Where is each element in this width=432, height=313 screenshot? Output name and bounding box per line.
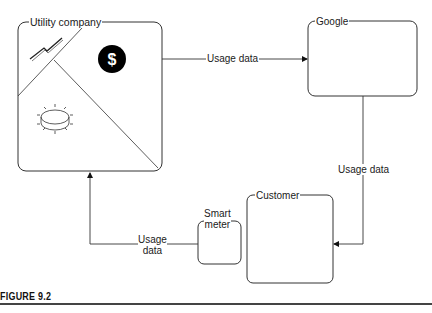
diagram-canvas: $ <box>0 0 432 313</box>
customer-label: Customer <box>255 190 300 201</box>
edge-label-meter-to-utility-line1: Usage <box>138 234 167 245</box>
dollar-icon: $ <box>98 45 126 73</box>
customer-box <box>247 195 333 283</box>
google-label: Google <box>315 16 349 27</box>
smart-meter-label-line2: meter <box>204 219 231 230</box>
caption-rule <box>0 303 432 305</box>
google-box <box>308 21 417 96</box>
edge-label-meter-to-utility: Usage data <box>137 234 168 256</box>
svg-text:$: $ <box>108 51 117 68</box>
lightning-icon <box>30 38 63 61</box>
utility-company-label: Utility company <box>29 17 102 28</box>
edge-label-google-to-customer: Usage data <box>337 164 390 175</box>
edge-label-meter-to-utility-line2: data <box>138 245 167 256</box>
utility-company-box <box>18 22 162 171</box>
meter-dial-icon <box>37 104 73 134</box>
figure-caption: FIGURE 9.2 <box>0 290 51 302</box>
smart-meter-label-line1: Smart <box>204 208 231 219</box>
smart-meter-label: Smart meter <box>203 208 232 230</box>
edge-label-utility-to-google: Usage data <box>206 53 259 64</box>
